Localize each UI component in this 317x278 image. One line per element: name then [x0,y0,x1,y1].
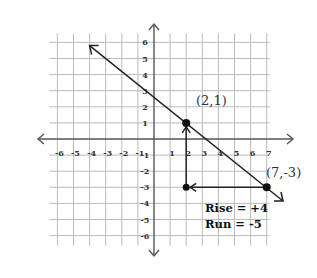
x-tick-label: -4 [87,148,96,158]
x-tick-label: -5 [71,148,80,158]
y-tick-label: -5 [141,215,150,225]
y-tick-label: -4 [141,198,150,208]
y-tick-label: -6 [141,231,150,241]
x-tick-label: -2 [119,148,128,158]
run-annotation: Run = -5 [205,217,262,231]
x-tick-label: -3 [103,148,112,158]
x-tick-label: 6 [250,148,256,158]
y-tick-label: 6 [142,37,148,47]
y-tick-label: 5 [142,54,148,64]
y-tick-label: 4 [142,70,148,80]
point-label-7-neg3: (7,-3) [266,165,301,180]
y-tick-label: 2 [142,102,148,112]
y-tick-label: -1 [141,150,150,160]
point-label-2-1: (2,1) [196,93,227,108]
x-tick-label: 7 [266,148,272,158]
y-tick-label: 1 [142,118,148,128]
y-tick-label: -3 [141,182,150,192]
x-tick-label: 5 [234,148,240,158]
x-tick-label: 3 [202,148,208,158]
rise-annotation: Rise = +4 [205,201,268,215]
x-tick-label: -6 [55,148,64,158]
point-marker [182,119,190,127]
x-tick-label: 1 [169,148,175,158]
y-tick-label: -2 [141,166,150,176]
point-marker [263,183,271,191]
corner-point-marker [183,184,190,191]
coordinate-plane: -6-5-4-3-2-11234567654321-1-2-3-4-5-6 (2… [0,0,317,278]
